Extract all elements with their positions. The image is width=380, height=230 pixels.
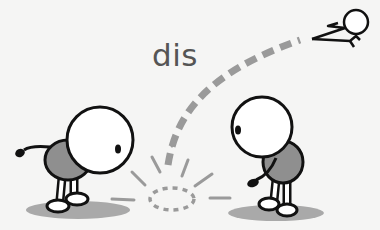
left-figure [14, 107, 133, 219]
right-head [232, 97, 292, 157]
illustration: dis [0, 0, 380, 230]
left-head [67, 107, 133, 173]
scene-drawing [0, 0, 380, 230]
flying-figure [312, 10, 368, 47]
left-eye [115, 145, 121, 154]
right-figure [228, 97, 324, 221]
caption-word: dis [152, 40, 198, 71]
right-eye [235, 126, 241, 135]
impact-ring [150, 188, 194, 210]
